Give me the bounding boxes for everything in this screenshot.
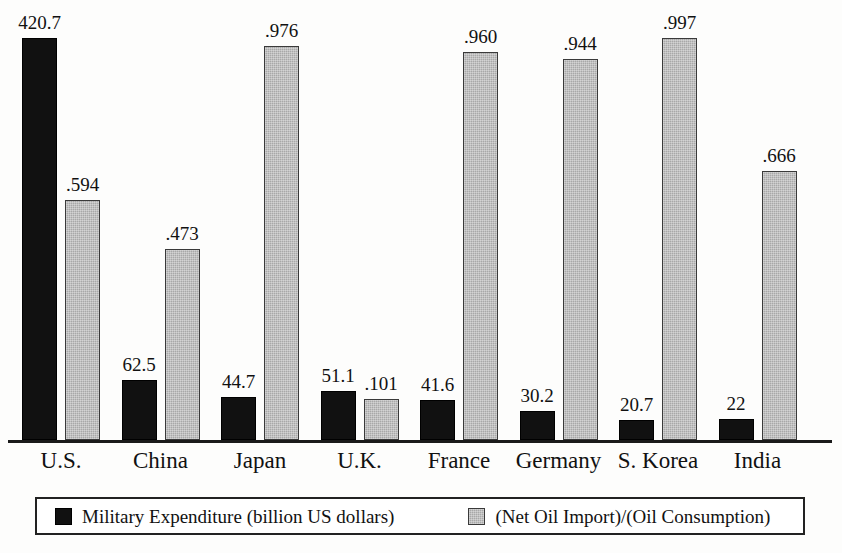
bar-value-label: 62.5 <box>122 355 155 374</box>
bar-group: 44.7.976 <box>221 0 299 440</box>
legend-entry-military: Military Expenditure (billion US dollars… <box>55 507 394 526</box>
bar-military-china[interactable] <box>122 380 157 440</box>
black-square-swatch-icon <box>55 508 72 525</box>
category-label: France <box>408 446 510 476</box>
bar-value-label: 420.7 <box>18 13 61 32</box>
bar-military-u-s[interactable] <box>22 38 57 440</box>
category-label: Germany <box>508 446 610 476</box>
bar-group: 20.7.997 <box>619 0 697 440</box>
bar-value-label: .666 <box>762 146 795 165</box>
legend-label-oil: (Net Oil Import)/(Oil Consumption) <box>495 507 770 526</box>
bar-oil-france[interactable] <box>463 52 498 440</box>
bar-value-label: 30.2 <box>520 386 553 405</box>
bar-oil-china[interactable] <box>165 249 200 440</box>
legend-entry-oil: (Net Oil Import)/(Oil Consumption) <box>468 507 770 526</box>
bar-oil-u-s[interactable] <box>65 200 100 440</box>
bar-value-label: 44.7 <box>222 372 255 391</box>
bar-value-label: 51.1 <box>321 366 354 385</box>
bar-group: 420.7.594 <box>22 0 100 440</box>
category-label: Japan <box>209 446 311 476</box>
category-label: U.S. <box>10 446 112 476</box>
bar-value-label: .997 <box>663 13 696 32</box>
bar-value-label: .976 <box>265 21 298 40</box>
bar-group: 62.5.473 <box>122 0 200 440</box>
bar-value-label: .944 <box>563 34 596 53</box>
bar-value-label: .594 <box>66 175 99 194</box>
bar-value-label: .101 <box>364 374 397 393</box>
bar-military-japan[interactable] <box>221 397 256 440</box>
bar-military-germany[interactable] <box>520 411 555 440</box>
bar-oil-s-korea[interactable] <box>662 38 697 440</box>
bar-military-india[interactable] <box>719 419 754 440</box>
category-label: S. Korea <box>607 446 709 476</box>
bar-group: 22.666 <box>719 0 797 440</box>
bar-military-s-korea[interactable] <box>619 420 654 440</box>
x-axis-category-labels: U.S.ChinaJapanU.K.FranceGermanyS. KoreaI… <box>0 446 842 480</box>
chart-legend: Military Expenditure (billion US dollars… <box>35 497 805 535</box>
bar-value-label: .473 <box>165 224 198 243</box>
gray-square-swatch-icon <box>468 508 485 525</box>
legend-label-military: Military Expenditure (billion US dollars… <box>82 507 394 526</box>
bar-value-label: .960 <box>464 27 497 46</box>
bar-value-label: 41.6 <box>421 375 454 394</box>
bar-value-label: 22 <box>727 394 746 413</box>
bar-military-france[interactable] <box>420 400 455 440</box>
plot-area: 420.7.59462.5.47344.7.97651.1.10141.6.96… <box>0 0 842 443</box>
category-label: India <box>707 446 809 476</box>
x-axis-line <box>8 440 832 443</box>
bar-group: 41.6.960 <box>420 0 498 440</box>
category-label: U.K. <box>309 446 411 476</box>
bar-oil-japan[interactable] <box>264 46 299 440</box>
bar-value-label: 20.7 <box>620 395 653 414</box>
bar-military-u-k[interactable] <box>321 391 356 440</box>
category-label: China <box>110 446 212 476</box>
bar-oil-india[interactable] <box>762 171 797 440</box>
bar-chart: 420.7.59462.5.47344.7.97651.1.10141.6.96… <box>0 0 842 553</box>
bar-group: 30.2.944 <box>520 0 598 440</box>
bar-oil-u-k[interactable] <box>364 399 399 440</box>
bar-oil-germany[interactable] <box>563 59 598 440</box>
bar-group: 51.1.101 <box>321 0 399 440</box>
